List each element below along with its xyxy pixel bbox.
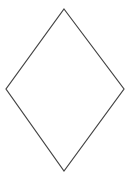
diagram-svg bbox=[0, 0, 135, 177]
diagram-canvas bbox=[0, 0, 135, 177]
rhombus-shape bbox=[6, 9, 124, 171]
